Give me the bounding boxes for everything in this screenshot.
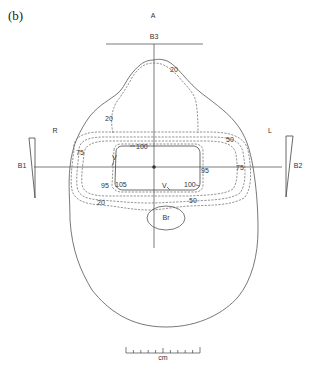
v-arrow-lower bbox=[167, 187, 170, 190]
v-arrow-upper bbox=[112, 161, 114, 166]
isodose-label-50-inferior: 50 bbox=[189, 197, 197, 204]
beam-b2-wedge-icon bbox=[286, 136, 293, 197]
isocenter-marker bbox=[152, 165, 156, 169]
isodose-label-100-top: 100 bbox=[136, 143, 148, 150]
beam-b1-label: B1 bbox=[18, 162, 27, 169]
isodose-50 bbox=[77, 137, 245, 203]
isodose-label-20-inferior: 20 bbox=[97, 199, 105, 206]
v-label-upper: V bbox=[112, 154, 117, 161]
beam-b3-label: B3 bbox=[150, 33, 159, 40]
isodose-label-95-left: 95 bbox=[101, 182, 109, 189]
scale-bar-unit: cm bbox=[158, 354, 168, 361]
v-label-lower: V bbox=[162, 182, 167, 189]
beam-b2-label: B2 bbox=[294, 162, 303, 169]
brainstem-label: Br bbox=[163, 214, 171, 221]
scale-bar: cm bbox=[126, 347, 200, 361]
beam-b1-wedge-icon bbox=[29, 138, 35, 198]
isodose-20-anterior bbox=[112, 63, 198, 133]
isodose-label-75-left: 75 bbox=[236, 164, 244, 171]
isodose-label-20-right: 20 bbox=[105, 115, 113, 122]
right-label: R bbox=[52, 127, 57, 134]
isodose-diagram: A R L B3 B1 B2 Br 20 20 20 75 75 50 50 1… bbox=[0, 0, 311, 365]
isodose-label-105: 105 bbox=[115, 181, 127, 188]
left-label: L bbox=[268, 127, 272, 134]
isodose-label-95-right: 95 bbox=[201, 167, 209, 174]
isodose-label-100-right: 100 bbox=[184, 181, 196, 188]
isodose-label-75-right: 75 bbox=[76, 149, 84, 156]
isodose-label-50-left: 50 bbox=[226, 136, 234, 143]
anterior-label: A bbox=[151, 12, 156, 19]
head-outline bbox=[69, 59, 258, 327]
isodose-label-20-anterior: 20 bbox=[170, 66, 178, 73]
